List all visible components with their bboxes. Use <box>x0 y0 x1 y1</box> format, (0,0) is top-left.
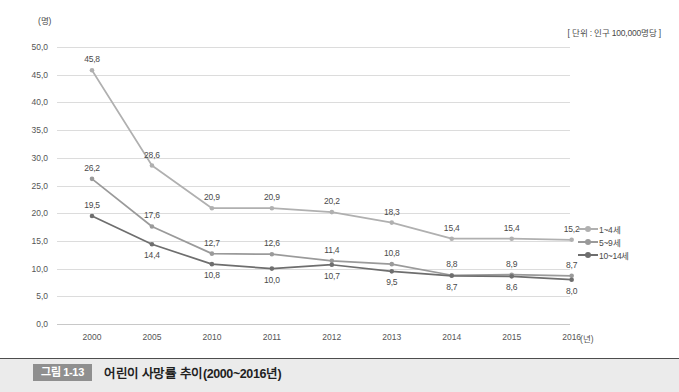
legend-item[interactable]: 10~14세 <box>578 248 676 261</box>
data-label: 20,2 <box>324 196 340 206</box>
data-label: 15,4 <box>444 223 460 233</box>
x-axis-tick: 2012 <box>322 332 341 342</box>
series-marker <box>389 220 394 225</box>
x-axis-tick: 2014 <box>442 332 461 342</box>
figure-caption-bar: 그림 1-13 어린이 사망률 추이(2000~2016년) <box>0 358 679 392</box>
chart-area: (명) [ 단위 : 인구 100,000명당 ] 0,05,010,015,0… <box>0 0 679 352</box>
figure-number-badge: 그림 1-13 <box>33 364 92 382</box>
data-label: 14,4 <box>144 250 160 260</box>
series-marker <box>210 251 215 256</box>
series-marker <box>90 214 95 219</box>
data-label: 12,6 <box>264 238 280 248</box>
series-marker <box>509 274 514 279</box>
series-marker <box>509 236 514 241</box>
series-marker <box>330 210 335 215</box>
x-axis-unit-label: (년) <box>580 332 594 344</box>
data-label: 19,5 <box>84 200 100 210</box>
data-label: 10,8 <box>384 248 400 258</box>
data-label: 10,0 <box>264 275 280 285</box>
legend-label: 1~4세 <box>599 223 620 235</box>
series-marker <box>389 262 394 267</box>
data-label: 28,6 <box>144 150 160 160</box>
data-label: 20,9 <box>264 192 280 202</box>
x-axis-tick-labels: 200020052010201120122013201420152016 <box>57 332 570 346</box>
legend-marker-icon <box>578 250 598 259</box>
figure-title: 어린이 사망률 추이(2000~2016년) <box>104 363 281 382</box>
data-label: 8,9 <box>506 259 517 269</box>
data-label: 26,2 <box>84 163 100 173</box>
series-lines <box>0 0 679 352</box>
series-marker <box>90 68 95 73</box>
figure-container: (명) [ 단위 : 인구 100,000명당 ] 0,05,010,015,0… <box>0 0 679 392</box>
series-marker <box>449 236 454 241</box>
legend-item[interactable]: 1~4세 <box>578 222 676 235</box>
series-marker <box>150 224 155 229</box>
x-axis-tick: 2013 <box>382 332 401 342</box>
legend-marker-icon <box>578 237 598 246</box>
series-marker <box>270 206 275 211</box>
series-marker <box>569 237 574 242</box>
series-marker <box>270 252 275 257</box>
data-label: 20,9 <box>204 192 220 202</box>
figure-caption: 그림 1-13 어린이 사망률 추이(2000~2016년) <box>33 363 281 382</box>
data-label: 9,5 <box>386 277 397 287</box>
series-marker <box>569 277 574 282</box>
data-label: 45,8 <box>84 54 100 64</box>
series-marker <box>210 206 215 211</box>
legend-marker-icon <box>578 224 598 233</box>
series-marker <box>210 262 215 267</box>
x-axis-tick: 2015 <box>502 332 521 342</box>
x-axis-tick: 2000 <box>83 332 102 342</box>
x-axis-tick: 2010 <box>202 332 221 342</box>
x-axis-tick: 2011 <box>263 332 281 342</box>
series-marker <box>150 242 155 247</box>
x-axis-tick: 2005 <box>142 332 161 342</box>
data-label: 8,0 <box>566 286 577 296</box>
chart-legend: 1~4세5~9세10~14세 <box>578 222 676 261</box>
x-axis-tick: 2016 <box>562 332 581 342</box>
legend-item[interactable]: 5~9세 <box>578 235 676 248</box>
series-marker <box>90 177 95 182</box>
data-label: 10,8 <box>204 270 220 280</box>
data-label: 17,6 <box>144 210 160 220</box>
data-label: 8,6 <box>506 282 517 292</box>
series-marker <box>330 262 335 267</box>
series-marker <box>270 266 275 271</box>
series-marker <box>150 163 155 168</box>
series-marker <box>389 269 394 274</box>
legend-label: 10~14세 <box>599 249 629 261</box>
data-label: 15,4 <box>504 223 520 233</box>
data-label: 12,7 <box>204 238 220 248</box>
data-label: 8,8 <box>446 259 457 269</box>
series-marker <box>449 274 454 279</box>
data-label: 8,7 <box>446 282 457 292</box>
legend-label: 5~9세 <box>599 236 620 248</box>
data-label: 10,7 <box>324 271 340 281</box>
data-label: 18,3 <box>384 207 400 217</box>
data-label: 11,4 <box>324 245 339 255</box>
data-label: 8,7 <box>566 260 577 270</box>
